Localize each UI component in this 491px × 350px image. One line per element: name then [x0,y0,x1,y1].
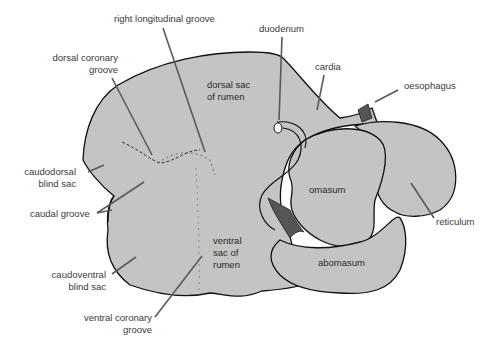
label-oesophagus: oesophagus [404,80,456,92]
label-abomasum: abomasum [318,257,365,269]
ruminant-stomach-diagram: right longitudinal groove dorsal coronar… [0,0,491,350]
label-caudoventral-blind-sac: caudoventral blind sac [30,269,106,293]
label-right-longitudinal-groove: right longitudinal groove [114,13,215,25]
label-dorsal-sac-of-rumen: dorsal sac of rumen [207,79,250,103]
label-reticulum: reticulum [436,216,475,228]
label-omasum: omasum [309,184,345,196]
label-ventral-coronary-groove: ventral coronary groove [72,312,152,336]
label-cardia: cardia [315,61,341,73]
label-caudal-groove: caudal groove [30,208,90,220]
label-caudodorsal-blind-sac: caudodorsal blind sac [10,166,76,190]
duodenum-opening [274,123,282,133]
label-ventral-sac-of-rumen: ventral sac of rumen [213,235,242,271]
label-dorsal-coronary-groove: dorsal coronary groove [48,52,118,76]
label-duodenum: duodenum [259,23,304,35]
